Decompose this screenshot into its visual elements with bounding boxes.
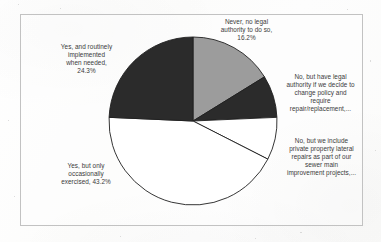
pie-label-no-but-we-include-sewer-main: No, but we include private property late… [272,137,371,177]
pie-chart [0,0,381,242]
pie-label-yes-routinely-implemented: Yes, and routinely implemented when need… [40,43,133,75]
pie-svg [0,0,381,242]
pie-label-no-but-have-legal-authority: No, but have legal authority if we decid… [272,73,369,113]
pie-label-never-no-legal-authority: Never, no legal authority to do so, 16.2… [198,18,295,42]
pie-slice-group [109,37,277,205]
pie-label-yes-occasionally-exercised: Yes, but only occasionally exercised, 43… [38,162,134,186]
screenshot-root: Never, no legal authority to do so, 16.2… [0,0,381,242]
